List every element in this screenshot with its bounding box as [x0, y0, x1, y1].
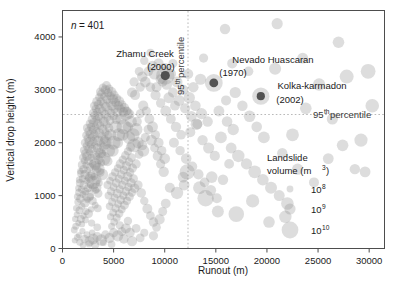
x-tick-label: 0 [60, 255, 65, 266]
x-axis: 050001000015000200002500030000 [60, 249, 383, 267]
data-bubble [228, 206, 244, 222]
x-tick-label: 5000 [103, 255, 124, 266]
legend-bubble-10e10 [282, 222, 299, 239]
data-bubble [136, 188, 146, 198]
data-bubble [220, 24, 230, 34]
data-bubble [286, 128, 299, 141]
data-bubble [206, 171, 218, 183]
data-bubble [116, 221, 124, 229]
data-bubble [361, 64, 376, 79]
plot-canvas: 050001000015000200002500030000 010002000… [0, 0, 398, 295]
data-bubble [161, 199, 171, 209]
data-bubble [193, 169, 203, 179]
data-bubble [100, 239, 107, 246]
data-bubble [228, 124, 239, 135]
vertical-percentile-sup: th [174, 78, 181, 84]
annotation-zhamu-creek-line2: (2000) [147, 61, 174, 72]
data-bubble [354, 133, 367, 146]
annotation-zhamu-creek-line1: Zhamu Creek [116, 48, 174, 59]
data-bubble [221, 95, 231, 105]
legend-label-base: 10 [311, 204, 322, 215]
data-bubble [350, 164, 360, 174]
data-bubble [272, 18, 283, 29]
horizontal-percentile-sup: th [324, 108, 330, 115]
data-bubble [197, 190, 213, 206]
annotation-nevado-huascaran-line2: (1970) [219, 67, 246, 78]
data-bubble [230, 87, 241, 98]
legend-label-exponent: 9 [322, 203, 326, 210]
sample-size-label: n = 401 [71, 20, 105, 31]
data-bubble [71, 227, 78, 234]
data-bubble [127, 236, 137, 246]
x-tick-label: 25000 [305, 255, 331, 266]
x-tick-label: 20000 [254, 255, 280, 266]
data-bubble [136, 234, 145, 243]
data-bubble [72, 216, 78, 222]
legend-entries: 1081091010 [282, 183, 330, 239]
data-bubble [202, 116, 212, 126]
data-bubble [149, 231, 158, 240]
data-bubble [75, 185, 81, 191]
vertical-percentile-base: 95 [175, 84, 186, 95]
data-bubble [97, 169, 109, 181]
data-bubble [94, 204, 102, 212]
data-bubble [333, 36, 345, 48]
legend-bubble-10e8 [287, 186, 294, 193]
sample-size-symbol: n [71, 20, 77, 31]
data-bubble [175, 146, 184, 155]
horizontal-percentile-base: 95 [313, 109, 324, 120]
x-axis-title: Runout (m) [198, 265, 248, 276]
annotation-kolka-karmadon-line1: Kolka-karmadon [277, 80, 346, 91]
data-bubble [82, 217, 89, 224]
data-bubble [80, 242, 86, 248]
data-bubble [258, 132, 270, 144]
data-bubble [263, 216, 275, 228]
legend-label-base: 10 [311, 184, 322, 195]
data-bubble [337, 140, 349, 152]
data-bubble [132, 159, 141, 168]
y-tick-label: 0 [50, 243, 55, 254]
data-bubble [323, 153, 334, 164]
data-bubble [191, 118, 203, 130]
landslide-runout-scatter-figure: 050001000015000200002500030000 010002000… [0, 0, 398, 295]
data-bubble [214, 106, 225, 117]
x-tick-label: 10000 [152, 255, 178, 266]
x-tick-label: 30000 [356, 255, 382, 266]
vertical-percentile-label: 95 th percentile [174, 37, 186, 95]
legend-label-base: 10 [311, 225, 322, 236]
annotation-kolka-karmadon: Kolka-karmadon (2002) [276, 80, 346, 105]
data-bubble [169, 138, 179, 148]
data-bubble [244, 110, 256, 122]
data-bubble [129, 77, 138, 86]
y-tick-label: 2000 [34, 137, 55, 148]
data-bubble [135, 150, 144, 159]
horizontal-percentile-rest: percentile [330, 109, 371, 120]
legend-title-line2: volume (m [267, 165, 311, 176]
data-bubble [76, 232, 82, 238]
y-axis-title: Vertical drop height (m) [5, 78, 16, 181]
annotation-nevado-huascaran-line1: Nevado Huascaran [232, 54, 313, 65]
y-tick-label: 1000 [34, 190, 55, 201]
data-bubble [74, 193, 81, 200]
data-bubble [76, 176, 83, 183]
data-bubble [159, 153, 170, 164]
data-bubble [159, 167, 169, 177]
legend-label-exponent: 10 [322, 224, 330, 231]
annotation-kolka-karmadon-line2: (2002) [276, 94, 303, 105]
data-bubble [85, 172, 96, 183]
data-bubble [212, 205, 224, 217]
horizontal-percentile-label: 95 th percentile [313, 108, 371, 120]
data-bubble [91, 182, 101, 192]
data-bubble [176, 130, 186, 140]
legend-title-close-paren: ) [326, 165, 329, 176]
data-bubble [132, 117, 141, 126]
y-tick-label: 3000 [34, 84, 55, 95]
data-bubble [135, 67, 144, 76]
data-bubble [246, 194, 259, 207]
data-bubble [127, 87, 137, 97]
legend-title-line1: Landslide [267, 152, 308, 163]
data-bubble [124, 217, 132, 225]
y-tick-label: 4000 [34, 31, 55, 42]
data-bubble [165, 183, 175, 193]
data-bubble [218, 175, 228, 185]
